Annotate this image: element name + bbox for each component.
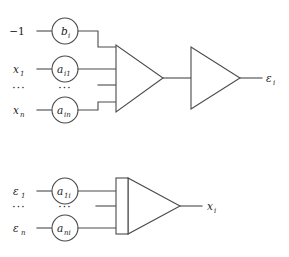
transpose-bar-block xyxy=(116,178,128,234)
label-eps1-base: ε xyxy=(13,185,19,197)
ellipsis-weight-bottom: ··· xyxy=(58,201,71,213)
wire-ain-to-sum xyxy=(78,102,116,110)
weight-node-ani xyxy=(52,215,78,241)
wire-bias-to-sum xyxy=(78,31,116,47)
label-xn-sub: n xyxy=(20,111,25,119)
label-ain-sub: in xyxy=(64,111,71,119)
label-x1-sub: 1 xyxy=(20,70,24,78)
label-output-epsilon-base: ε xyxy=(266,72,272,84)
label-ai1-sub: i1 xyxy=(64,70,71,78)
summing-triangle-forward xyxy=(116,45,163,112)
label-output-epsilon-sub: i xyxy=(273,79,275,87)
label-output-x-sub: i xyxy=(214,207,216,215)
label-x1-base: x xyxy=(13,63,19,75)
label-output-x-base: x xyxy=(207,200,213,212)
label-bias-base: b xyxy=(61,25,68,37)
ellipsis-signal-bottom: ··· xyxy=(12,201,25,213)
label-a1i-sub: 1i xyxy=(64,192,71,200)
label-epsn-sub: n xyxy=(21,229,26,237)
label-minus-one: −1 xyxy=(9,25,24,37)
label-xn-base: x xyxy=(13,104,19,116)
label-eps1-sub: 1 xyxy=(21,192,25,200)
neuron-block-diagram: −1 b i x 1 a i1 ··· ··· x n a in ε i ε 1… xyxy=(0,0,289,257)
summing-triangle-backward xyxy=(128,178,180,234)
label-ain-base: a xyxy=(57,104,63,116)
ellipsis-signal-top: ··· xyxy=(12,82,25,94)
diagram-root: −1 b i x 1 a i1 ··· ··· x n a in ε i ε 1… xyxy=(0,0,289,257)
weight-node-ain xyxy=(52,97,78,123)
label-bias-sub: i xyxy=(68,32,70,40)
label-ani-sub: ni xyxy=(64,229,71,237)
label-epsn-base: ε xyxy=(13,222,19,234)
label-ai1-base: a xyxy=(57,63,63,75)
label-ani-base: a xyxy=(57,222,63,234)
weight-node-ai1 xyxy=(52,56,78,82)
label-a1i-base: a xyxy=(57,185,63,197)
ellipsis-weight-top: ··· xyxy=(58,82,71,94)
activation-triangle-forward xyxy=(191,47,240,109)
